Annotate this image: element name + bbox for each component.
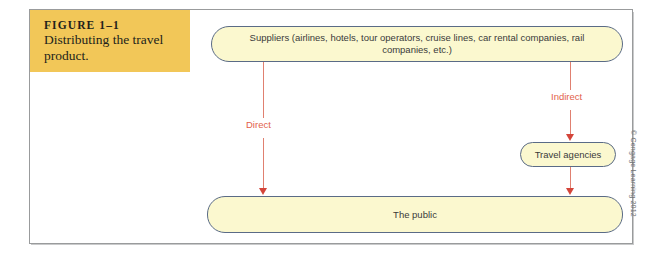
edge-indirect-label: Indirect [548, 91, 585, 102]
edge-agencies-to-public-arrowhead-icon [566, 188, 574, 195]
edge-direct-label: Direct [243, 119, 274, 130]
figure-caption-box: FIGURE 1–1 Distributing the travel produ… [30, 10, 190, 72]
node-suppliers: Suppliers (airlines, hotels, tour operat… [211, 26, 623, 62]
node-travel-agencies: Travel agencies [520, 142, 616, 167]
node-public: The public [207, 196, 623, 233]
edge-direct-arrowhead-icon [259, 188, 267, 195]
edge-direct-line-upper [263, 62, 264, 118]
edge-indirect-arrowhead-icon [566, 134, 574, 141]
edge-direct-line-lower [263, 138, 264, 189]
copyright-credit: © Cengage Learning 2012 [630, 130, 637, 217]
node-travel-agencies-label: Travel agencies [535, 149, 602, 161]
node-public-label: The public [393, 209, 437, 221]
figure-root: FIGURE 1–1 Distributing the travel produ… [0, 0, 672, 255]
edge-agencies-to-public-line [570, 167, 571, 188]
edge-indirect-line-lower [570, 110, 571, 134]
figure-title: Distributing the travel product. [44, 32, 180, 64]
edge-indirect-line-upper [570, 62, 571, 90]
figure-number-label: FIGURE 1–1 [44, 18, 190, 32]
node-suppliers-label: Suppliers (airlines, hotels, tour operat… [228, 32, 606, 56]
